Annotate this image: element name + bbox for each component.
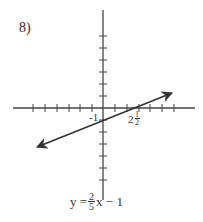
y-intercept-label: -1 <box>89 111 98 123</box>
equation-prefix: y = <box>70 194 87 210</box>
x-intercept-whole: 2 <box>128 113 134 125</box>
slope-fraction: 2 5 <box>88 192 95 211</box>
slope-numerator: 2 <box>89 192 94 201</box>
x-intercept-label: 2 1 2 <box>128 111 141 126</box>
graph-line <box>37 93 172 147</box>
slope-denominator: 5 <box>89 202 94 211</box>
x-intercept-fraction: 1 2 <box>135 111 140 126</box>
equation-suffix: x − 1 <box>96 194 123 210</box>
x-intercept-denominator: 2 <box>135 119 139 126</box>
equation-label: y = 2 5 x − 1 <box>70 192 123 211</box>
coordinate-plane <box>0 0 203 222</box>
x-intercept-numerator: 1 <box>135 111 139 118</box>
